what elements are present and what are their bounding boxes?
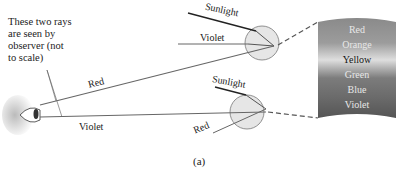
- band-yellow: Yellow: [318, 52, 396, 67]
- band-green: Green: [318, 67, 396, 82]
- violet-exit-label: Violet: [200, 32, 224, 43]
- band-violet: Violet: [318, 97, 396, 112]
- observer-note: These two rays are seen by observer (not…: [8, 16, 98, 64]
- rainbow-band-labels: Red Orange Yellow Green Blue Violet: [318, 20, 396, 116]
- violet-ray-label: Violet: [79, 121, 103, 132]
- band-orange: Orange: [318, 37, 396, 52]
- band-blue: Blue: [318, 82, 396, 97]
- raindrop-upper: [245, 26, 279, 60]
- figure-caption: (a): [193, 156, 205, 167]
- band-red: Red: [318, 22, 396, 37]
